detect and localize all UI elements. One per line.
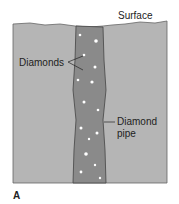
diamonds-label: Diamonds bbox=[19, 57, 64, 68]
pipe-label-line2: pipe bbox=[117, 128, 136, 139]
diamond-pipe-diagram bbox=[0, 0, 179, 204]
surface-label: Surface bbox=[118, 10, 152, 21]
pipe-label-line1: Diamond bbox=[117, 116, 157, 127]
diamond-pipe bbox=[73, 26, 106, 183]
panel-label: A bbox=[13, 190, 20, 201]
